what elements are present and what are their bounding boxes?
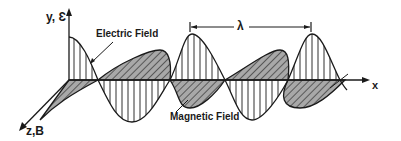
- wavelength-marker: [190, 22, 311, 32]
- electric-field-label: Electric Field: [96, 29, 158, 39]
- z-axis: [22, 80, 69, 128]
- y-axis-label: y, Ɛ: [46, 11, 66, 23]
- x-axis-arrow-icon: [362, 77, 370, 83]
- electric-field-leader: [92, 42, 113, 62]
- y-axis-arrow-icon: [66, 8, 72, 16]
- wavelength-label: λ: [237, 20, 244, 32]
- em-wave-diagram: y, Ɛ x z,B Electric Field Magnetic Field…: [0, 0, 401, 141]
- z-axis-label: z,B: [26, 125, 44, 137]
- x-axis-label: x: [372, 80, 378, 91]
- magnetic-field-label: Magnetic Field: [170, 112, 239, 122]
